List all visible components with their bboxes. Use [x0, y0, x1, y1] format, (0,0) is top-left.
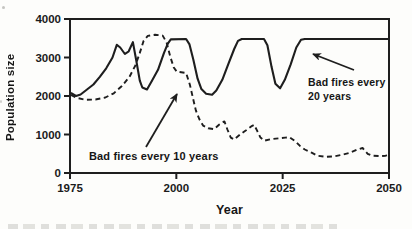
annotation-bad-fires-20-years: Bad fires every 20 years: [308, 76, 386, 103]
cropped-caption-fragment: [8, 224, 338, 229]
scan-speck: [0, 100, 2, 103]
x-axis-title: Year: [70, 203, 389, 217]
y-axis-title: Population size: [4, 26, 16, 168]
y-tick-label: 1000: [35, 129, 61, 141]
annotation-arrow-20-years: [313, 54, 354, 70]
x-tick-label: 2000: [164, 182, 190, 194]
y-tick-label: 4000: [35, 13, 61, 25]
y-tick-label: 3000: [35, 52, 61, 64]
scan-speck: [2, 6, 5, 9]
annotation-bad-fires-10-years: Bad fires every 10 years: [89, 150, 219, 164]
x-tick-label: 1975: [57, 182, 83, 194]
annotation-20-line1: Bad fires every: [308, 76, 386, 88]
population-fire-frequency-chart: 010002000300040001975200020252050 Popula…: [0, 0, 412, 229]
y-tick-label: 0: [55, 167, 61, 179]
annotation-arrow-10-years: [146, 94, 177, 147]
plot-canvas: 010002000300040001975200020252050: [0, 0, 412, 229]
x-tick-label: 2025: [270, 182, 296, 194]
y-tick-label: 2000: [35, 90, 61, 102]
annotation-10-line1: Bad fires every 10 years: [89, 150, 219, 162]
annotation-20-line2: 20 years: [308, 90, 351, 102]
x-tick-label: 2050: [376, 182, 402, 194]
